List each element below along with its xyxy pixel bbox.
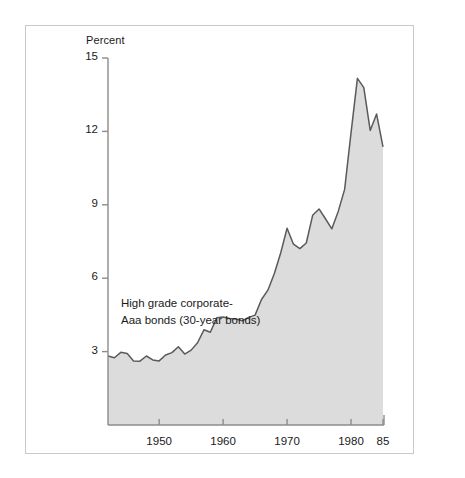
x-axis-tick-label: 85: [353, 435, 413, 447]
figure-container: Percent 1512963 195019601970198085 High …: [0, 0, 465, 478]
series-label-annotation: High grade corporate- Aaa bonds (30-year…: [121, 295, 260, 328]
series-label-line-2: Aaa bonds (30-year bonds): [121, 312, 260, 329]
x-axis-tick-label: 1970: [257, 435, 317, 447]
y-axis-tick-label: 9: [92, 197, 98, 209]
x-axis-tick-label: 1960: [193, 435, 253, 447]
series-label-line-1: High grade corporate-: [121, 295, 260, 312]
x-axis-tick-label: 1950: [129, 435, 189, 447]
y-axis-tick-label: 6: [92, 270, 98, 282]
y-axis-tick-label: 15: [85, 50, 98, 62]
y-axis-tick-label: 3: [92, 344, 98, 356]
y-axis-tick-label: 12: [85, 123, 98, 135]
chart-plot-area: Percent 1512963 195019601970198085 High …: [0, 0, 465, 478]
chart-graphic: [0, 0, 465, 478]
area-fill-group: [108, 78, 383, 425]
